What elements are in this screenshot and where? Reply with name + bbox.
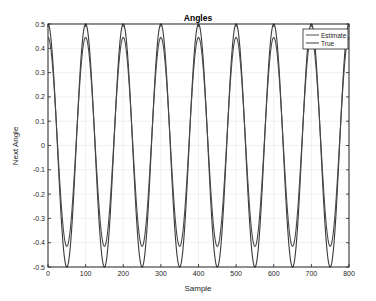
y-tick-label: 0.4 <box>35 45 45 52</box>
chart-title: Angles <box>184 13 213 23</box>
x-tick-label: 800 <box>343 270 355 277</box>
legend[interactable]: Estimate True <box>303 29 348 49</box>
y-tick-label: -0.2 <box>33 191 45 198</box>
legend-label-estimate: Estimate <box>321 32 347 39</box>
x-axis-label: Sample <box>184 284 212 293</box>
y-tick-label: 0.3 <box>35 69 45 76</box>
line-chart: 0100200300400500600700800-0.5-0.4-0.3-0.… <box>0 0 376 301</box>
x-tick-label: 200 <box>117 270 129 277</box>
y-tick-label: -0.5 <box>33 264 45 271</box>
y-tick-label: 0.5 <box>35 21 45 28</box>
y-tick-label: 0 <box>41 142 45 149</box>
y-tick-label: 0.1 <box>35 118 45 125</box>
grid-lines <box>48 24 349 267</box>
x-tick-label: 600 <box>268 270 280 277</box>
y-tick-label: 0.2 <box>35 93 45 100</box>
y-axis-label: Next Angle <box>11 126 20 165</box>
x-tick-label: 500 <box>230 270 242 277</box>
x-tick-label: 0 <box>46 270 50 277</box>
x-tick-label: 300 <box>155 270 167 277</box>
x-tick-label: 700 <box>306 270 318 277</box>
x-tick-label: 400 <box>193 270 205 277</box>
legend-label-true: True <box>321 40 335 47</box>
y-tick-label: -0.3 <box>33 215 45 222</box>
y-tick-label: -0.4 <box>33 239 45 246</box>
x-tick-label: 100 <box>80 270 92 277</box>
y-tick-label: -0.1 <box>33 166 45 173</box>
figure: 0100200300400500600700800-0.5-0.4-0.3-0.… <box>0 0 376 301</box>
